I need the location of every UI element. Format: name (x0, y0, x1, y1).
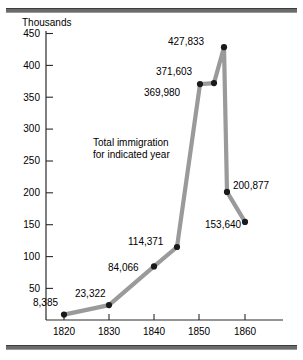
annotation-line-1: Total immigration (93, 137, 169, 149)
x-tick-label-1850: 1850 (179, 327, 219, 337)
point-label-1845: 114,371 (128, 236, 163, 247)
y-tick-label-300: 300 (10, 124, 40, 134)
point-label-1830: 23,322 (75, 288, 106, 299)
y-tick-label-50: 50 (10, 284, 40, 294)
point-label-1860: 153,640 (205, 219, 241, 230)
x-tick-label-1820: 1820 (44, 327, 84, 337)
x-axis-ticks (64, 314, 245, 320)
x-tick-label-1830: 1830 (89, 327, 129, 337)
point-label-1840: 84,066 (108, 262, 139, 273)
point-label-1854: 371,603 (156, 66, 192, 77)
y-tick-label-350: 350 (10, 93, 40, 103)
y-tick-label-400: 400 (10, 61, 40, 71)
data-markers (61, 44, 248, 318)
annotation-line-2: for indicated year (93, 149, 170, 161)
y-tick-label-100: 100 (10, 252, 40, 262)
y-tick-label-150: 150 (10, 220, 40, 230)
y-tick-label-450: 450 (10, 29, 40, 39)
point-label-1855: 427,833 (168, 36, 204, 47)
point-label-1820: 8,385 (33, 297, 58, 308)
y-tick-label-250: 250 (10, 156, 40, 166)
x-tick-label-1840: 1840 (134, 327, 174, 337)
immigration-line-chart-figure: Thousands (0, 0, 303, 360)
point-label-1850: 369,980 (144, 87, 180, 98)
point-label-1857: 200,877 (233, 180, 269, 191)
x-tick-label-1860: 1860 (225, 327, 265, 337)
y-tick-label-200: 200 (10, 188, 40, 198)
y-axis-ticks (46, 34, 53, 289)
